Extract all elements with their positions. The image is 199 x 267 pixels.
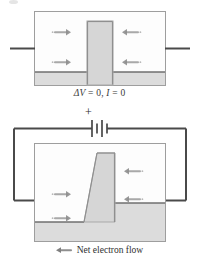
biased-panel-graphics <box>14 120 186 242</box>
caption-equals-1: = <box>85 88 96 98</box>
figure-container: + ΔV = 0, I = 0 Net electron flow <box>0 0 199 267</box>
battery-symbol <box>92 120 107 137</box>
caption-current-value: 0 <box>120 88 125 98</box>
symmetric-barrier <box>87 21 113 85</box>
caption-delta-v-symbol: ΔV <box>74 88 86 98</box>
equilibrium-caption: ΔV = 0, I = 0 <box>0 88 199 98</box>
diagram-canvas <box>0 0 199 267</box>
net-electron-flow-label: Net electron flow <box>77 245 143 255</box>
net-electron-flow-arrow-icon <box>56 247 72 254</box>
caption-equals-2: = <box>110 88 121 98</box>
biased-floor-fill-right <box>115 203 165 241</box>
net-electron-flow-caption: Net electron flow <box>0 245 199 256</box>
battery-polarity-plus-label: + <box>85 106 92 118</box>
biased-floor-fill-left <box>35 222 115 241</box>
equilibrium-panel-graphics <box>10 12 190 86</box>
